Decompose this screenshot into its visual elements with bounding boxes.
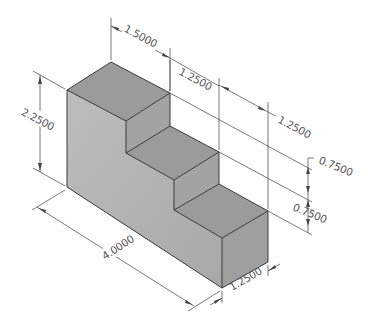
dim-label-1.2500-bottom: 1.2500: [276, 113, 313, 140]
dim-label-0.7500-upper: 0.7500: [317, 154, 354, 178]
stair-block: [67, 62, 268, 288]
dim-label-1.2500-middle: 1.2500: [177, 65, 214, 92]
isometric-stair-drawing: 1.5000 1.2500 1.2500: [0, 0, 369, 314]
dim-label-0.7500-lower: 0.7500: [291, 201, 328, 225]
dim-overall-height: 2.2500: [20, 71, 65, 186]
dim-label-2.2500: 2.2500: [20, 105, 57, 132]
dim-bottom-step-depth: 1.2500: [219, 85, 313, 209]
dim-riser-heights: 0.7500 0.7500: [291, 154, 354, 233]
